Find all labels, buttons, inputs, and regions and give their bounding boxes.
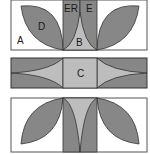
label-e: E bbox=[86, 3, 93, 14]
label-er: ER bbox=[64, 3, 78, 14]
label-c: C bbox=[77, 68, 84, 79]
label-a: A bbox=[17, 35, 24, 46]
bottom-panel bbox=[11, 98, 147, 152]
top-panel: A D ER E B bbox=[11, 0, 147, 50]
quilt-block-diagram: A D ER E B C bbox=[0, 0, 150, 154]
label-b: B bbox=[76, 37, 83, 48]
middle-panel: C bbox=[11, 58, 147, 88]
label-d: D bbox=[38, 21, 45, 32]
